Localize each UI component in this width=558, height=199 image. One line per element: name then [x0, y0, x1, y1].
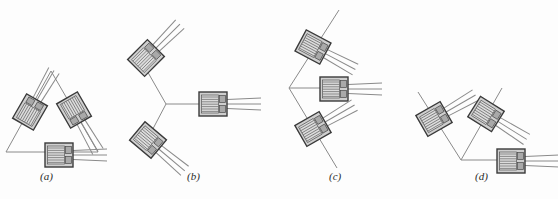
gauge-right [320, 77, 382, 101]
gauge-upper-left [128, 16, 189, 77]
panel-c [289, 10, 382, 168]
gauge-lower-left [130, 122, 193, 180]
gauge-low [497, 149, 558, 173]
strain-gauge-rosette-figure: (a) (b) (c) (d) [0, 0, 558, 199]
panel-label-d: (d) [475, 170, 488, 182]
gauge-left [13, 64, 65, 130]
panel-label-c: (c) [329, 170, 341, 182]
gauge-bottom [45, 143, 107, 167]
panel-label-a: (a) [40, 170, 53, 182]
panel-label-b: (b) [187, 170, 200, 182]
panel-b [128, 16, 261, 180]
panel-a [6, 64, 108, 167]
gauge-right [468, 96, 533, 149]
gauge-upper [295, 30, 361, 80]
gauge-lower [295, 95, 361, 147]
gauge-right [199, 92, 261, 116]
panel-d [416, 85, 558, 173]
